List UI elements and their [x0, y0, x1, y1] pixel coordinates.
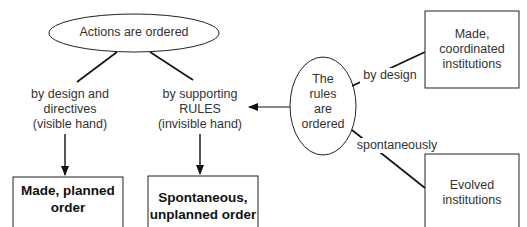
rules-node-label: The rules are ordered: [293, 72, 353, 132]
branch-left-label: by design and directives (visible hand): [15, 87, 125, 132]
top-node-label: Actions are ordered: [49, 25, 219, 40]
coordinated-institutions-label: Made, coordinated institutions: [425, 27, 519, 72]
made-order-label: Made, planned order: [13, 182, 123, 216]
branch-right-label: by supporting RULES (invisible hand): [145, 87, 255, 132]
spontaneous-order-label: Spontaneous, unplanned order: [146, 189, 260, 223]
evolved-institutions-label: Evolved institutions: [425, 178, 519, 208]
edge-upper-label: by design: [360, 68, 420, 83]
edge-lower-label: spontaneously: [352, 138, 442, 153]
